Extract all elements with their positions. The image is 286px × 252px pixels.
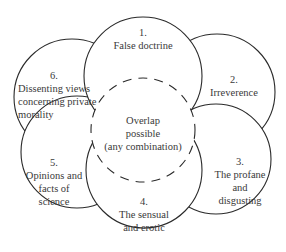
- category-4-number: 4.: [119, 195, 169, 208]
- category-5-line-1: Opinions and: [26, 169, 82, 182]
- category-6-line-1: Dissenting views: [18, 82, 96, 95]
- label-category-3: 3. The profane and disgusting: [214, 155, 265, 207]
- category-6-line-2: concerning private: [18, 95, 96, 108]
- center-line-3: (any combination): [104, 140, 181, 153]
- category-3-line-2: and: [214, 181, 265, 194]
- category-1-number: 1.: [113, 26, 172, 39]
- category-3-line-3: disgusting: [214, 194, 265, 207]
- label-center-overlap: Overlap possible (any combination): [104, 114, 181, 153]
- label-category-2: 2. Irreverence: [210, 73, 258, 99]
- label-category-1: 1. False doctrine: [113, 26, 172, 52]
- label-category-4: 4. The sensual and erotic: [119, 195, 169, 234]
- category-5-line-3: science: [26, 195, 82, 208]
- category-6-line-3: morality: [18, 108, 96, 121]
- category-5-number: 5.: [26, 156, 82, 169]
- category-3-number: 3.: [214, 155, 265, 168]
- center-line-1: Overlap: [104, 114, 181, 127]
- category-3-line-1: The profane: [214, 168, 265, 181]
- label-category-6: 6. Dissenting views concerning private m…: [18, 69, 96, 121]
- category-2-line-1: Irreverence: [210, 86, 258, 99]
- category-4-line-2: and erotic: [119, 221, 169, 234]
- center-line-2: possible: [104, 127, 181, 140]
- category-6-number: 6.: [18, 69, 90, 82]
- category-1-line-1: False doctrine: [113, 39, 172, 52]
- category-4-line-1: The sensual: [119, 208, 169, 221]
- category-2-number: 2.: [210, 73, 258, 86]
- label-category-5: 5. Opinions and facts of science: [26, 156, 82, 208]
- category-5-line-2: facts of: [26, 182, 82, 195]
